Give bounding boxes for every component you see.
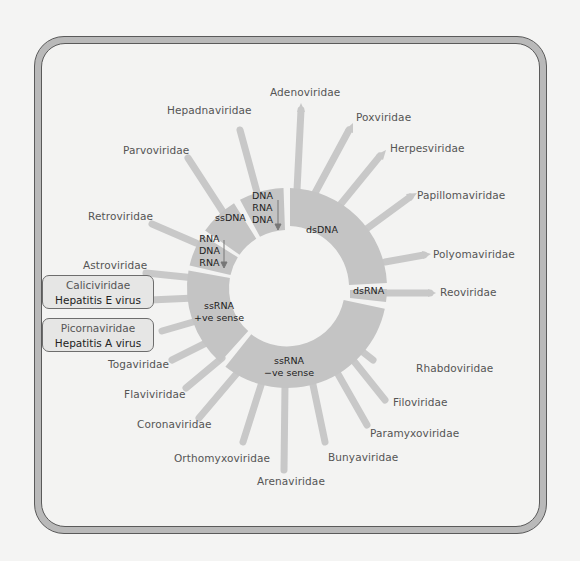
segment-label-ssrna-pos: ssRNA +ve sense [194,300,244,324]
label-adenoviridae: Adenoviridae [270,86,340,98]
box-family-label: Picornaviridae [43,321,153,336]
label-parvoviridae: Parvoviridae [123,144,189,156]
segment-label-line: DNA [252,190,273,201]
highlight-box-picornaviridae: Picornaviridae Hepatitis A virus [42,318,154,352]
spoke-coronaviridae [199,372,238,418]
segment-label-ssdna: ssDNA [215,212,246,224]
highlight-box-caliciviridae: Caliciviridae Hepatitis E virus [42,275,154,309]
segment-label-line: DNA [252,214,273,225]
spoke-hepadnaviridae [240,130,258,196]
segment-label-line: +ve sense [194,312,244,323]
label-astroviridae: Astroviridae [83,259,147,271]
label-reoviridae: Reoviridae [440,286,497,298]
spoke-arenaviridae [284,385,285,470]
label-filoviridae: Filoviridae [393,396,448,408]
spoke-bunyaviridae [312,380,325,442]
label-coronaviridae: Coronaviridae [137,418,212,430]
spoke-orthomyxoviridae [243,382,262,442]
box-virus-label: Hepatitis A virus [43,336,153,351]
spoke-retroviridae [152,224,196,243]
label-orthomyxoviridae: Orthomyxoviridae [174,452,270,464]
segment-label-line: ssRNA [204,300,234,311]
segment-label-dna-rna-dna: DNA RNA DNA [252,190,273,226]
segment-label-line: ssRNA [274,355,304,366]
segment-label-dsrna: dsRNA [353,285,384,297]
box-virus-label: Hepatitis E virus [43,293,153,308]
spoke-flaviviridae [186,358,222,388]
label-poxviridae: Poxviridae [356,111,411,123]
label-herpesviridae: Herpesviridae [390,142,465,154]
segment-label-rna-dna-rna: RNA DNA RNA [199,233,220,269]
arrow-tip-icon [422,251,431,259]
label-togaviridae: Togaviridae [108,358,169,370]
box-family-label: Caliciviridae [43,278,153,293]
label-paramyxoviridae: Paramyxoviridae [370,427,459,439]
segment-dsdna [290,188,387,285]
spoke-polyomaviridae [385,255,424,262]
segment-label-line: DNA [199,245,220,256]
segment-label-ssrna-neg: ssRNA −ve sense [264,355,314,379]
segment-label-dsdna: dsDNA [306,224,338,236]
spoke-herpesviridae [340,156,380,205]
spoke-papillomaviridae [365,197,410,230]
spoke-parvoviridae [188,158,225,215]
segment-label-line: RNA [199,257,219,268]
label-flaviviridae: Flaviviridae [124,388,186,400]
segment-label-line: RNA [252,202,272,213]
arrow-tip-icon [297,103,305,112]
spoke-poxviridae [315,130,349,193]
label-retroviridae: Retroviridae [88,210,153,222]
segment-label-line: −ve sense [264,367,314,378]
label-papillomaviridae: Papillomaviridae [417,189,505,201]
label-hepadnaviridae: Hepadnaviridae [167,104,252,116]
spoke-adenoviridae [297,110,301,190]
label-rhabdoviridae: Rhabdoviridae [416,362,493,374]
segment-label-line: RNA [199,233,219,244]
label-bunyaviridae: Bunyaviridae [328,451,398,463]
label-polyomaviridae: Polyomaviridae [433,248,515,260]
label-arenaviridae: Arenaviridae [257,475,325,487]
